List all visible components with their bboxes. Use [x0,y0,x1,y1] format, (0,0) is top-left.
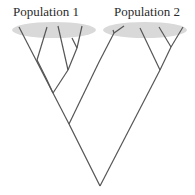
tree-graphic [0,0,195,195]
population-2-ellipse [103,22,187,38]
gene-tree-diagram: Population 1 Population 2 [0,0,195,195]
population-1-label: Population 1 [13,4,79,20]
tree-branches [19,26,183,186]
population-1-ellipse [12,22,96,38]
population-2-label: Population 2 [114,4,180,20]
